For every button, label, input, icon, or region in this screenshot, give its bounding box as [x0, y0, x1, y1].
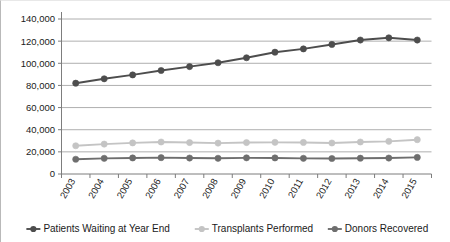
x-axis-tick-label: 2008 [200, 177, 220, 201]
data-point-marker [272, 49, 278, 55]
x-axis-tick-label: 2011 [285, 177, 305, 200]
data-point-marker [414, 137, 420, 143]
x-axis-tick-label: 2005 [114, 177, 134, 201]
line-chart: 020,00040,00060,00080,000100,000120,0001… [0, 0, 450, 242]
y-tick-marks [58, 19, 62, 174]
y-axis-tick-label: 140,000 [21, 13, 55, 24]
legend-item[interactable]: Patients Waiting at Year End [26, 223, 169, 234]
x-axis-tick-label: 2006 [143, 177, 163, 201]
chart-legend: Patients Waiting at Year EndTransplants … [26, 223, 428, 234]
x-axis-tick-label: 2009 [228, 177, 248, 201]
data-point-marker [272, 155, 278, 161]
x-axis-tick-label: 2004 [86, 177, 106, 201]
data-point-marker [357, 155, 363, 161]
data-point-marker [357, 139, 363, 145]
x-axis-tick-label: 2003 [57, 177, 77, 201]
data-point-marker [215, 155, 221, 161]
data-point-marker [243, 139, 249, 145]
data-point-marker [158, 67, 164, 73]
data-point-marker [243, 155, 249, 161]
x-axis-tick-label: 2014 [370, 177, 390, 201]
data-point-marker [414, 37, 420, 43]
data-point-marker [186, 155, 192, 161]
data-point-marker [130, 140, 136, 146]
data-point-marker [130, 72, 136, 78]
legend-label: Donors Recovered [345, 223, 428, 234]
legend-label: Patients Waiting at Year End [43, 223, 169, 234]
data-point-marker [215, 60, 221, 66]
data-point-marker [101, 141, 107, 147]
y-axis-tick-label: 20,000 [26, 146, 55, 157]
x-axis-tick-label: 2010 [257, 177, 277, 201]
y-axis-tick-label: 60,000 [26, 102, 55, 113]
legend-label: Transplants Performed [212, 223, 313, 234]
data-point-marker [186, 64, 192, 70]
data-point-marker [386, 138, 392, 144]
y-axis-tick-label: 120,000 [21, 36, 55, 47]
data-point-marker [300, 139, 306, 145]
x-tick-marks [62, 174, 432, 178]
x-axis-tick-label: 2012 [314, 177, 334, 201]
legend-marker-icon [30, 226, 36, 232]
y-axis-tick-label: 100,000 [21, 58, 55, 69]
data-point-marker [73, 80, 79, 86]
data-point-marker [386, 35, 392, 41]
data-point-marker [158, 139, 164, 145]
data-point-marker [357, 37, 363, 43]
data-point-marker [130, 155, 136, 161]
data-point-marker [329, 140, 335, 146]
chart-canvas: 020,00040,00060,00080,000100,000120,0001… [1, 1, 450, 242]
x-axis-labels: 2003200420052006200720082009201020112012… [57, 177, 419, 201]
data-point-marker [300, 155, 306, 161]
y-axis-tick-label: 0 [50, 168, 55, 179]
data-point-marker [243, 55, 249, 61]
y-axis-tick-label: 80,000 [26, 80, 55, 91]
y-axis-tick-label: 40,000 [26, 124, 55, 135]
legend-item[interactable]: Transplants Performed [195, 223, 313, 234]
data-point-marker [414, 154, 420, 160]
x-axis-tick-label: 2015 [399, 177, 419, 201]
legend-item[interactable]: Donors Recovered [328, 223, 428, 234]
data-point-marker [186, 139, 192, 145]
data-point-marker [272, 139, 278, 145]
data-point-marker [329, 41, 335, 47]
data-point-marker [101, 155, 107, 161]
data-point-marker [158, 155, 164, 161]
data-point-marker [300, 46, 306, 52]
y-axis-labels: 020,00040,00060,00080,000100,000120,0001… [21, 13, 55, 179]
x-axis-tick-label: 2007 [171, 177, 191, 201]
data-point-marker [329, 155, 335, 161]
data-point-marker [386, 155, 392, 161]
data-point-marker [73, 156, 79, 162]
data-point-marker [73, 143, 79, 149]
data-point-marker [215, 140, 221, 146]
data-point-marker [101, 76, 107, 82]
legend-marker-icon [199, 226, 205, 232]
legend-marker-icon [332, 226, 338, 232]
x-axis-tick-label: 2013 [342, 177, 362, 201]
